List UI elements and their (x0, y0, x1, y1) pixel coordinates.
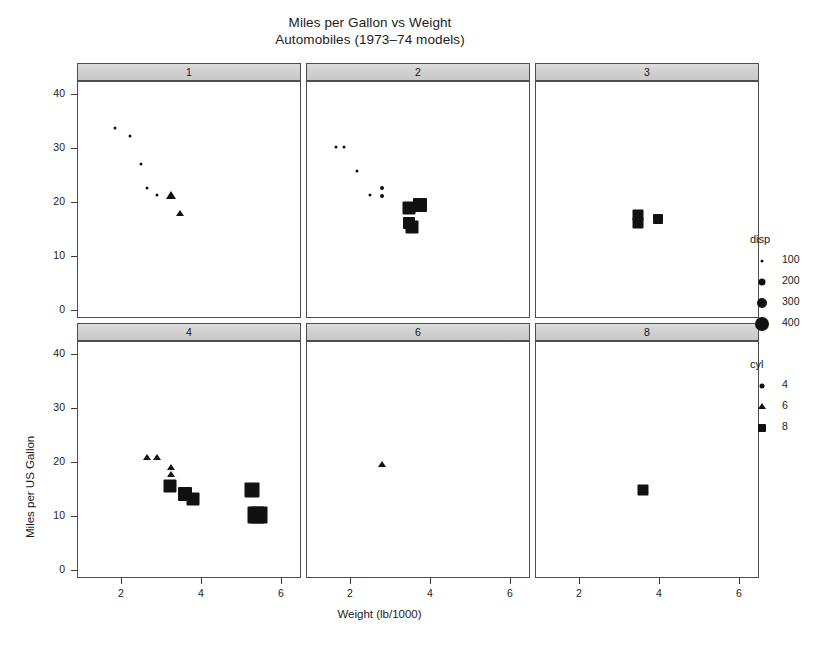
legend-key-circle-icon (759, 279, 766, 286)
y-axis-tick-label: 40 (39, 87, 65, 99)
disp-legend: disp100200300400 (748, 233, 827, 335)
x-axis-tick-label: 4 (656, 587, 662, 599)
y-axis-tick-label: 20 (39, 195, 65, 207)
y-axis-tick (71, 202, 77, 203)
legend-entry: 4 (748, 376, 827, 397)
data-point (167, 471, 175, 477)
data-point (143, 454, 151, 460)
legend-entry-label: 300 (782, 295, 800, 307)
data-point (245, 483, 260, 498)
panel-strip-2: 2 (306, 63, 530, 81)
panel-strip-1: 1 (77, 63, 301, 81)
x-axis-tick (121, 578, 122, 584)
y-axis-tick (71, 256, 77, 257)
x-axis-label: Weight (lb/1000) (0, 608, 759, 620)
y-axis-tick (71, 354, 77, 355)
legend-entry-label: 100 (782, 253, 800, 265)
panel-6 (306, 341, 530, 578)
panel-strip-label: 2 (415, 66, 421, 78)
panel-4 (77, 341, 301, 578)
x-axis-tick-label: 6 (278, 587, 284, 599)
data-point (632, 217, 643, 228)
legend-key-square-icon (758, 424, 766, 432)
legend-entry-label: 6 (782, 399, 788, 411)
data-point (139, 162, 142, 165)
x-axis-tick (510, 578, 511, 584)
legend-key-circle-icon (755, 317, 769, 331)
data-point (343, 146, 346, 149)
panel-strip-label: 4 (186, 326, 192, 338)
legend-entry: 200 (748, 272, 827, 293)
panel-strip-label: 1 (186, 66, 192, 78)
y-axis-tick (71, 310, 77, 311)
legend-title: disp (748, 233, 827, 245)
legend-entry-label: 4 (782, 378, 788, 390)
x-axis-tick (201, 578, 202, 584)
x-axis-tick-label: 4 (198, 587, 204, 599)
panel-strip-4: 4 (77, 323, 301, 341)
data-point (355, 169, 358, 172)
legend-entry-label: 8 (782, 420, 788, 432)
x-axis-tick-label: 2 (347, 587, 353, 599)
y-axis-tick-label: 20 (39, 455, 65, 467)
data-point (153, 454, 161, 460)
panel-8 (535, 341, 759, 578)
legend-title: cyl (748, 358, 827, 370)
data-point (187, 493, 200, 506)
y-axis-label: Miles per US Gallon (24, 435, 36, 537)
x-axis-tick-label: 6 (507, 587, 513, 599)
data-point (637, 485, 648, 496)
y-axis-tick-label: 40 (39, 347, 65, 359)
panel-3 (535, 81, 759, 318)
panel-strip-6: 6 (306, 323, 530, 341)
data-point (176, 210, 184, 216)
data-point (129, 135, 132, 138)
x-axis-tick (739, 578, 740, 584)
legend-entry-label: 400 (782, 316, 800, 328)
legend-entry: 300 (748, 293, 827, 314)
legend-key-triangle-icon (758, 403, 766, 409)
legend-key-circle-icon (760, 384, 765, 389)
data-point (378, 461, 386, 467)
panel-strip-label: 8 (644, 326, 650, 338)
y-axis-tick (71, 148, 77, 149)
x-axis-tick-label: 2 (118, 587, 124, 599)
y-axis-tick (71, 516, 77, 517)
panel-1 (77, 81, 301, 318)
y-axis-tick-label: 30 (39, 141, 65, 153)
plot-area: 123468010203040010203040246246246disp100… (0, 0, 827, 652)
legend-entry: 8 (748, 418, 827, 439)
x-axis-tick (430, 578, 431, 584)
legend-key-circle-icon (757, 298, 767, 308)
data-point (163, 479, 176, 492)
legend-entry: 400 (748, 314, 827, 335)
panel-strip-3: 3 (535, 63, 759, 81)
y-axis-tick (71, 570, 77, 571)
legend-key-circle-icon (761, 260, 764, 263)
cyl-legend: cyl468 (748, 358, 827, 439)
x-axis-tick-label: 6 (736, 587, 742, 599)
x-axis-tick (659, 578, 660, 584)
data-point (380, 194, 384, 198)
panel-strip-label: 6 (415, 326, 421, 338)
data-point (413, 198, 427, 212)
y-axis-tick (71, 94, 77, 95)
x-axis-tick (579, 578, 580, 584)
data-point (145, 187, 148, 190)
y-axis-tick-label: 10 (39, 249, 65, 261)
legend-entry: 100 (748, 251, 827, 272)
x-axis-tick-label: 4 (427, 587, 433, 599)
data-point (114, 127, 117, 130)
data-point (653, 214, 663, 224)
data-point (334, 146, 337, 149)
data-point (156, 194, 159, 197)
y-axis-tick-label: 0 (39, 563, 65, 575)
legend-entry: 6 (748, 397, 827, 418)
data-point (405, 221, 418, 234)
y-axis-tick-label: 10 (39, 509, 65, 521)
data-point (166, 191, 176, 199)
x-axis-tick (350, 578, 351, 584)
data-point (380, 186, 384, 190)
y-axis-tick (71, 408, 77, 409)
data-point (167, 464, 175, 470)
